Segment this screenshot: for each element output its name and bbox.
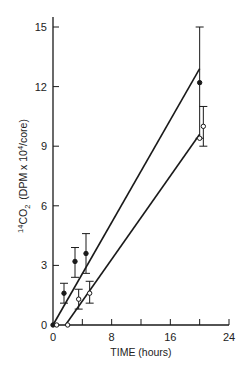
- plot-area: [51, 27, 208, 327]
- data-point-open: [76, 297, 80, 301]
- fit-line-open-circles: [65, 134, 199, 325]
- y-tick-label: 15: [35, 21, 47, 33]
- svg-text:14CO2(DPM x 104/core): 14CO2(DPM x 104/core): [16, 119, 32, 233]
- fit-line-filled-circles: [53, 69, 200, 325]
- y-label-units-pre: (DPM x 10: [17, 150, 29, 200]
- y-axis-label: 14CO2(DPM x 104/core): [16, 119, 32, 233]
- data-point-filled: [62, 291, 66, 295]
- chart-svg: 03691215081624 TIME (hours) 14CO2(DPM x …: [0, 0, 249, 375]
- y-label-subscript: 2: [23, 205, 32, 209]
- y-label-main: CO: [17, 209, 29, 225]
- y-tick-label: 0: [41, 319, 47, 331]
- data-point-filled: [73, 259, 77, 263]
- x-tick-label: 16: [164, 331, 176, 343]
- y-tick-label: 9: [41, 140, 47, 152]
- y-tick-label: 3: [41, 259, 47, 271]
- x-tick-label: 0: [50, 331, 56, 343]
- data-point-open: [54, 323, 58, 327]
- x-axis-label: TIME (hours): [110, 346, 171, 358]
- data-point-filled: [84, 251, 88, 255]
- x-tick-label: 24: [223, 331, 235, 343]
- y-label-units-post: /core): [17, 119, 29, 146]
- x-tick-label: 8: [109, 331, 115, 343]
- y-label-superscript: 14: [16, 225, 25, 233]
- axis-labels: TIME (hours) 14CO2(DPM x 104/core): [16, 119, 172, 358]
- data-point-open: [201, 124, 205, 128]
- y-tick-label: 6: [41, 200, 47, 212]
- y-tick-label: 12: [35, 81, 47, 93]
- data-point-filled: [197, 80, 201, 84]
- data-point-open: [87, 291, 91, 295]
- data-point-open: [197, 136, 201, 140]
- data-point-open: [65, 323, 69, 327]
